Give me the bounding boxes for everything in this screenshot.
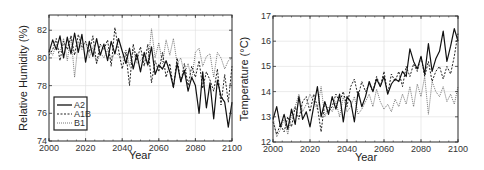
y-tick-label: 16 — [261, 36, 271, 46]
temperature-plot-frame — [273, 16, 458, 142]
figure: 2000202020402060208021007476788082 Relat… — [0, 0, 484, 170]
series-a1b-line — [273, 34, 458, 135]
x-tick-label: 2060 — [149, 143, 169, 153]
y-tick-label: 12 — [261, 137, 271, 147]
x-tick-label: 2100 — [222, 143, 242, 153]
temperature-chart: 200020202040206020802100121314151617 Tem… — [238, 11, 468, 163]
x-tick-label: 2080 — [185, 143, 205, 153]
series-b1-line — [49, 29, 232, 80]
x-tick-label: 2020 — [76, 143, 96, 153]
y-tick-label: 82 — [37, 25, 47, 35]
y-tick-label: 74 — [37, 136, 47, 146]
y-tick-label: 17 — [261, 11, 271, 21]
humidity-y-axis-label: Relative Humidity (%) — [17, 25, 29, 131]
y-tick-label: 78 — [37, 81, 47, 91]
y-tick-label: 15 — [261, 61, 271, 71]
y-tick-label: 14 — [261, 87, 271, 97]
x-tick-label: 2020 — [300, 144, 320, 154]
y-tick-label: 76 — [37, 108, 47, 118]
temperature-y-axis-label: Temperature (°C) — [238, 37, 250, 121]
y-tick-label: 13 — [261, 112, 271, 122]
series-a2-line — [273, 29, 458, 130]
legend-b1-label: B1 — [74, 118, 85, 128]
x-tick-label: 2100 — [448, 144, 468, 154]
humidity-legend: A2 A1B B1 — [54, 97, 91, 130]
temperature-x-axis-label: Year — [355, 151, 378, 163]
x-tick-label: 2080 — [411, 144, 431, 154]
humidity-chart: 2000202020402060208021007476788082 Relat… — [17, 15, 242, 161]
humidity-x-axis-label: Year — [129, 149, 152, 161]
y-tick-label: 80 — [37, 53, 47, 63]
